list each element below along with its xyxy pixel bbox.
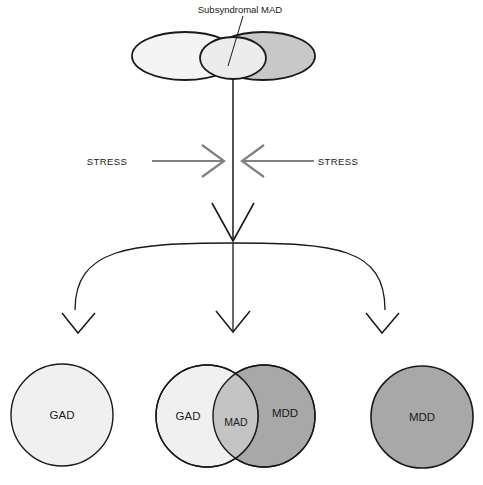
mad-progression-diagram: Subsyndromal MAD STRESS STRESS — [0, 0, 483, 485]
outcome-left-group: GAD — [11, 364, 113, 466]
top-ellipse-overlap — [200, 37, 266, 79]
outcome-middle-group: GAD MAD MDD — [156, 365, 315, 467]
outcome-mid-gad-label: GAD — [176, 410, 201, 422]
outcome-left-label: GAD — [50, 409, 75, 421]
stress-right-label: STRESS — [318, 156, 358, 167]
subsyndromal-mad-label: Subsyndromal MAD — [198, 4, 283, 15]
outcome-mid-overlap-label: MAD — [224, 416, 248, 428]
diagram-canvas: Subsyndromal MAD STRESS STRESS — [0, 0, 483, 485]
outcome-right-label: MDD — [409, 411, 435, 423]
speck-artifact — [244, 380, 246, 382]
outcome-mid-mdd-label: MDD — [272, 407, 298, 419]
stress-left-label: STRESS — [87, 156, 127, 167]
outcome-right-group: MDD — [371, 366, 473, 468]
